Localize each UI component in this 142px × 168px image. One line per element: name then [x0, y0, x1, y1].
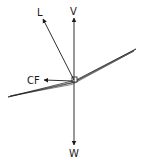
vertical-label: V: [70, 6, 77, 17]
lift-label: L: [37, 7, 43, 18]
lift-arrow: [43, 19, 74, 80]
wing: [8, 49, 136, 97]
weight-label: W: [69, 148, 79, 159]
centrifugal-force-arrow: [44, 80, 73, 81]
force-diagram: L V CF W: [0, 0, 142, 168]
centrifugal-label: CF: [27, 75, 40, 86]
